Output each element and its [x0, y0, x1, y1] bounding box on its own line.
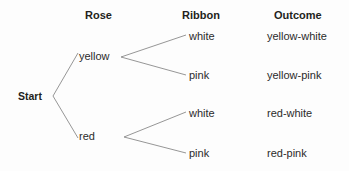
tree-diagram: Rose Ribbon Outcome Start yellow red whi…: [0, 0, 349, 171]
node-rose-red: red: [79, 130, 95, 142]
outcome-red-pink: red-pink: [267, 147, 307, 159]
outcome-yellow-pink: yellow-pink: [267, 69, 321, 81]
edge-red-to-white: [124, 112, 186, 137]
node-ribbon-pink-red: pink: [189, 147, 209, 159]
node-ribbon-white-red: white: [189, 107, 215, 119]
column-header-ribbon: Ribbon: [182, 9, 220, 21]
edge-red-to-pink: [124, 137, 186, 153]
node-ribbon-white-yellow: white: [189, 30, 215, 42]
edge-start-to-yellow: [53, 53, 78, 96]
edge-yellow-to-pink: [121, 57, 186, 75]
edge-start-to-red: [53, 96, 78, 138]
column-header-outcome: Outcome: [274, 9, 322, 21]
outcome-yellow-white: yellow-white: [267, 30, 327, 42]
edge-yellow-to-white: [121, 35, 186, 57]
column-header-rose: Rose: [85, 9, 112, 21]
node-ribbon-pink-yellow: pink: [189, 69, 209, 81]
branch-lines-group: [0, 0, 349, 171]
node-rose-yellow: yellow: [79, 50, 110, 62]
outcome-red-white: red-white: [267, 107, 312, 119]
node-start: Start: [18, 90, 42, 102]
